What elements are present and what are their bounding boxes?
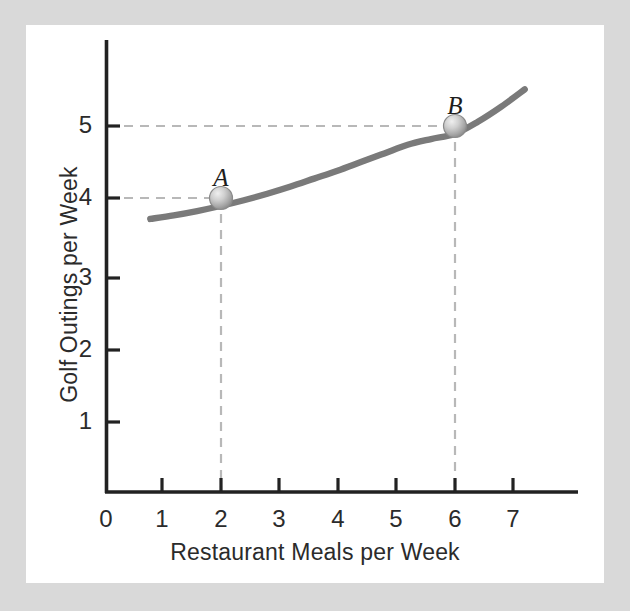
point-label-a: A xyxy=(204,164,238,192)
chart-figure: 5 4 3 2 1 0 1 2 3 4 5 6 7 A B Restaurant… xyxy=(0,0,630,611)
x-tick-label-6: 6 xyxy=(438,505,472,533)
point-label-b: B xyxy=(438,92,472,120)
x-tick-label-7: 7 xyxy=(496,505,530,533)
y-axis-title: Golf Outings per Week xyxy=(56,85,83,485)
x-tick-label-1: 1 xyxy=(145,505,179,533)
x-axis-title: Restaurant Meals per Week xyxy=(0,539,630,566)
x-axis-ticks xyxy=(162,478,513,492)
x-tick-label-3: 3 xyxy=(262,505,296,533)
origin-label-zero: 0 xyxy=(89,505,123,533)
x-tick-label-4: 4 xyxy=(321,505,355,533)
x-tick-label-5: 5 xyxy=(379,505,413,533)
x-tick-label-2: 2 xyxy=(204,505,238,533)
